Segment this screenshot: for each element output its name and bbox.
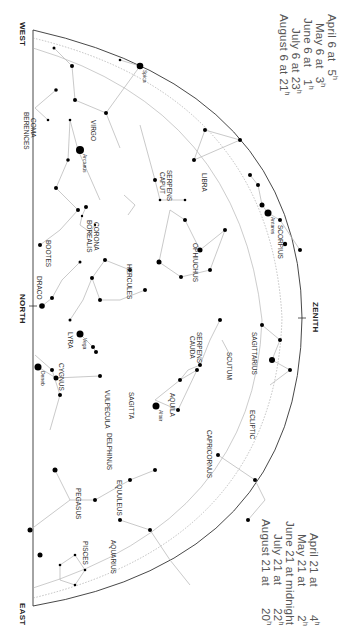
constellation-label: CAUDA <box>189 336 196 359</box>
star-label: Antares <box>270 217 276 234</box>
times-bottom-table: April 21 at4h May 21 at2h June 21 at mid… <box>260 519 320 626</box>
time-row: July 6 at23h <box>290 14 302 96</box>
times-top-table: April 6 at5h May 6 at3h June 6 at1h July… <box>278 14 338 96</box>
constellation-label: EQUULEUS <box>116 480 123 516</box>
time-row: July 21 at22h <box>272 519 284 626</box>
constellation-label: HERCULES <box>126 264 133 299</box>
constellation-label: DELPHINUS <box>106 433 113 470</box>
constellation-label: ECLIPTIC <box>249 410 256 439</box>
constellation-label: BOOTES <box>45 240 52 267</box>
constellation-label: SAGITTARIUS <box>251 332 258 375</box>
constellation-label: CAPRICORNUS <box>206 430 213 478</box>
constellation-label: SERPENS <box>196 332 203 363</box>
constellation-label: CYGNUS <box>58 363 65 391</box>
constellation-label: SCUTUM <box>226 352 233 380</box>
constellation-label: DRACO <box>36 276 43 299</box>
constellation-label: BERENICES <box>23 112 30 150</box>
star-label: Spica <box>142 70 148 83</box>
compass-zenith: ZENITH <box>311 302 320 333</box>
constellation-label: BOREALIS <box>86 220 93 253</box>
constellation-label: VULPECULA <box>104 390 111 429</box>
time-row: April 21 at4h <box>308 519 320 626</box>
constellation-label: PEGASUS <box>75 488 82 519</box>
compass-east: EAST <box>18 603 27 626</box>
star-label: Vega <box>82 338 88 349</box>
constellation-label: AQUILA <box>169 393 176 417</box>
time-row: August 6 at21h <box>278 14 290 96</box>
constellation-label: SERPENS <box>166 170 173 201</box>
time-row: June 6 at1h <box>302 14 314 96</box>
constellation-label: LYRA <box>67 332 74 349</box>
compass-west: WEST <box>18 22 27 46</box>
time-row: May 6 at3h <box>314 14 326 96</box>
time-row: April 6 at5h <box>326 14 338 96</box>
constellation-label: SAGITTA <box>128 392 135 419</box>
constellation-lines <box>30 48 300 585</box>
constellation-label: OPHIUCHUS <box>192 243 199 282</box>
star-label: Arcturus <box>82 154 88 173</box>
time-row: May 21 at2h <box>296 519 308 626</box>
constellation-label: VIRGO <box>90 120 97 141</box>
constellation-label: CORONA <box>93 222 100 251</box>
time-row: August 21 at20h <box>260 519 272 626</box>
constellation-label: CAPUT <box>159 172 166 194</box>
compass-north: NORTH <box>18 294 27 324</box>
constellation-label: COMA <box>30 118 37 138</box>
constellation-label: PISCES <box>82 541 89 565</box>
celestial-equator <box>33 48 262 588</box>
constellation-label: SCORPIUS <box>277 225 284 259</box>
constellation-label: AQUARIUS <box>110 540 117 574</box>
time-row: June 21 at midnight <box>284 519 296 626</box>
star-label: Deneb <box>40 371 46 386</box>
tick-marks <box>29 306 306 318</box>
star-label: Altair <box>158 410 164 421</box>
constellation-label: LIBRA <box>201 173 208 192</box>
